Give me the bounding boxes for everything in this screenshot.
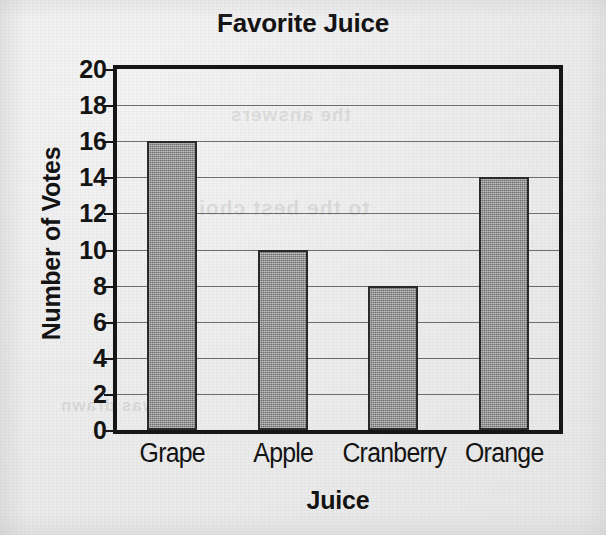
bar-apple <box>258 250 308 431</box>
plot-area <box>113 65 563 434</box>
y-tick-label: 0 <box>47 418 107 443</box>
bar-orange <box>479 177 529 430</box>
y-tick-mark <box>104 430 113 432</box>
y-tick-mark <box>104 177 113 179</box>
y-tick-label: 10 <box>47 238 107 263</box>
y-tick-label: 6 <box>47 310 107 335</box>
y-tick-label: 20 <box>47 57 107 82</box>
x-tick-label-grape: Grape <box>121 440 223 467</box>
y-tick-mark <box>104 141 113 143</box>
y-tick-mark <box>104 213 113 215</box>
y-tick-mark <box>104 358 113 360</box>
x-tick-label-apple: Apple <box>232 440 334 467</box>
y-tick-mark <box>104 250 113 252</box>
x-tick-label-orange: Orange <box>453 440 555 467</box>
gridline <box>117 105 559 106</box>
bar-grape <box>147 141 197 430</box>
x-tick-label-cranberry: Cranberry <box>342 440 444 467</box>
y-tick-label: 18 <box>47 93 107 118</box>
y-tick-mark <box>104 105 113 107</box>
y-tick-label: 14 <box>47 165 107 190</box>
y-tick-label: 12 <box>47 201 107 226</box>
bar-cranberry <box>368 286 418 430</box>
y-tick-label: 16 <box>47 129 107 154</box>
y-tick-label: 8 <box>47 274 107 299</box>
y-tick-label: 2 <box>47 382 107 407</box>
y-tick-mark <box>104 286 113 288</box>
y-tick-mark <box>104 394 113 396</box>
y-tick-mark <box>104 69 113 71</box>
y-tick-label: 4 <box>47 346 107 371</box>
chart-title: Favorite Juice <box>0 8 606 39</box>
scanned-bar-chart-page: the answers to the best choices was draw… <box>0 0 606 535</box>
y-tick-mark <box>104 322 113 324</box>
x-axis-title: Juice <box>113 486 563 515</box>
